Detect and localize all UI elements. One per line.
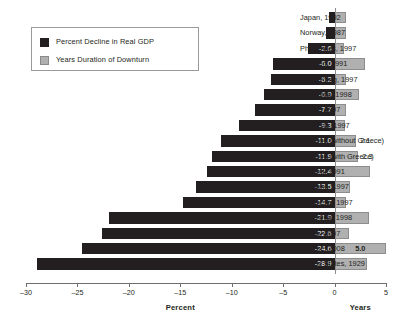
row-category-label: Average (with Greece)	[300, 151, 374, 162]
axis-tick	[77, 283, 78, 287]
axis-tick	[386, 283, 387, 287]
percent-axis-title: Percent	[166, 303, 195, 312]
chart-row: -28.9United States, 1929	[0, 256, 413, 271]
years-axis-line	[335, 283, 386, 284]
plot-area: Japan, 1992Norway, 1987-2.6Philippines, …	[0, 8, 413, 283]
chart-row: -24.65.0Greece, 2008	[0, 241, 413, 256]
chart-row: Norway, 1987	[0, 25, 413, 40]
axis-tick	[26, 283, 27, 287]
chart-row: -22.6Latvia, 2007	[0, 226, 413, 241]
chart-row: -11.92.3Average (with Greece)	[0, 149, 413, 164]
chart-row: -9.3Malaysia, 1997	[0, 118, 413, 133]
row-category-label: Hong Kong, 1997	[300, 74, 358, 85]
row-category-label: Finland, 1991	[300, 166, 345, 177]
row-category-label: Average (without Greece)	[300, 135, 384, 146]
chart-row: -6.0Sweden, 1991	[0, 56, 413, 71]
row-category-label: Latvia, 2007	[300, 228, 340, 239]
chart-row: -6.2Hong Kong, 1997	[0, 72, 413, 87]
chart-row: -2.6Philippines, 1997	[0, 41, 413, 56]
percent-tick-label: 0	[333, 288, 337, 297]
axis-tick	[180, 283, 181, 287]
percent-tick-label: –15	[174, 288, 186, 297]
bar-value-label-percent: -28.9	[37, 258, 331, 269]
percent-tick-label: –30	[20, 288, 32, 297]
row-category-label: Argentina, 1998	[300, 212, 352, 223]
axis-tick	[335, 283, 336, 287]
chart-row: -6.9Colombia, 1998	[0, 87, 413, 102]
bar-value-label-percent: -21.9	[109, 212, 331, 223]
row-category-label: Korea, 1997	[300, 104, 340, 115]
axis-tick	[129, 283, 130, 287]
chart-row: Japan, 1992	[0, 10, 413, 25]
chart-row: -12.4Finland, 1991	[0, 164, 413, 179]
years-axis-title: Years	[350, 303, 371, 312]
row-category-label: Sweden, 1991	[300, 58, 347, 69]
percent-tick-label: –20	[123, 288, 135, 297]
chart-row: -7.7Korea, 1997	[0, 102, 413, 117]
percent-tick-label: –10	[226, 288, 238, 297]
chart-row: -14.7Indonesia, 1997	[0, 195, 413, 210]
bar-value-label-percent: -22.6	[102, 228, 331, 239]
chart-row: -21.9Argentina, 1998	[0, 210, 413, 225]
row-category-label: Thailand, 1997	[300, 181, 349, 192]
row-category-label: United States, 1929	[300, 258, 365, 269]
years-tick-label: 5	[384, 288, 388, 297]
chart-row: -13.5Thailand, 1997	[0, 179, 413, 194]
axis-tick	[232, 283, 233, 287]
percent-tick-label: –25	[71, 288, 83, 297]
row-category-label: Philippines, 1997	[300, 43, 356, 54]
bar-value-label-percent: -24.6	[82, 243, 332, 254]
row-category-label: Indonesia, 1997	[300, 197, 353, 208]
row-category-label: Colombia, 1998	[300, 89, 352, 100]
axis-tick	[283, 283, 284, 287]
row-category-label: Japan, 1992	[300, 12, 341, 23]
percent-tick-label: –5	[279, 288, 287, 297]
row-category-label: Greece, 2008	[300, 243, 345, 254]
chart-row: -11.02.1Average (without Greece)	[0, 133, 413, 148]
row-category-label: Norway, 1987	[300, 27, 345, 38]
gdp-downturn-chart: Percent Decline in Real GDP Years Durati…	[0, 0, 413, 325]
row-category-label: Malaysia, 1997	[300, 120, 350, 131]
